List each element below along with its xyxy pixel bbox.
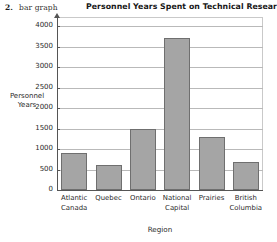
y-axis-title: Personnel Years <box>2 92 52 110</box>
y-tick-label-wrap: 2500 <box>25 84 53 92</box>
y-tick-label: 1000 <box>25 145 53 152</box>
y-axis-title-line-1: Personnel <box>2 92 52 101</box>
question-label: bar graph <box>19 3 58 12</box>
y-tick-label: 2500 <box>25 84 53 91</box>
y-tick-label: 3500 <box>25 43 53 50</box>
y-tick-label: 3000 <box>25 63 53 70</box>
x-axis-line <box>57 190 263 191</box>
y-tick-label: 500 <box>25 166 53 173</box>
x-tick-label: British Columbia <box>225 194 267 213</box>
bar-chart-figure: 2. bar graph Personnel Years Spent on Te… <box>0 0 277 242</box>
bar <box>233 162 259 190</box>
y-axis-title-line-2: Years <box>2 101 52 110</box>
y-tick-label-wrap: 0 <box>25 186 53 194</box>
bar <box>164 38 190 190</box>
gridline <box>57 88 263 89</box>
question-number: 2. <box>5 3 13 12</box>
gridline <box>57 67 263 68</box>
y-axis-arrow-icon <box>54 13 60 18</box>
bar <box>96 165 122 190</box>
y-axis-line <box>57 17 58 191</box>
y-tick-label-wrap: 1000 <box>25 145 53 153</box>
y-tick-label-wrap: 3000 <box>25 63 53 71</box>
gridline <box>57 108 263 109</box>
gridline <box>57 26 263 27</box>
bar <box>61 153 87 190</box>
y-tick-label-wrap: 1500 <box>25 125 53 133</box>
gridline <box>57 149 263 150</box>
y-tick-label-wrap: 500 <box>25 166 53 174</box>
y-tick-label-wrap: 3500 <box>25 43 53 51</box>
bar <box>199 137 225 190</box>
y-tick-label: 1500 <box>25 125 53 132</box>
chart-title: Personnel Years Spent on Technical Resea… <box>86 2 276 11</box>
gridline <box>57 129 263 130</box>
bar <box>130 129 156 191</box>
y-tick-label-wrap: 4000 <box>25 22 53 30</box>
x-axis-title: Region <box>57 225 263 234</box>
gridline <box>57 47 263 48</box>
y-tick-label: 0 <box>25 186 53 193</box>
y-tick-label: 4000 <box>25 22 53 29</box>
